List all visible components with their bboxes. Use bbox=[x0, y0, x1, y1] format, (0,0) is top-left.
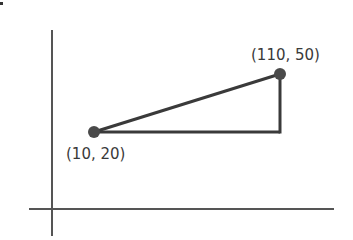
point-b-label: (110, 50) bbox=[251, 46, 320, 64]
diagram-canvas: (10, 20) (110, 50) bbox=[0, 0, 353, 240]
point-a-dot bbox=[88, 126, 100, 138]
diagram-svg bbox=[0, 0, 353, 240]
point-a-label: (10, 20) bbox=[66, 145, 125, 163]
hypotenuse-line bbox=[94, 74, 280, 132]
point-b-dot bbox=[274, 68, 286, 80]
corner-mark bbox=[0, 2, 3, 5]
